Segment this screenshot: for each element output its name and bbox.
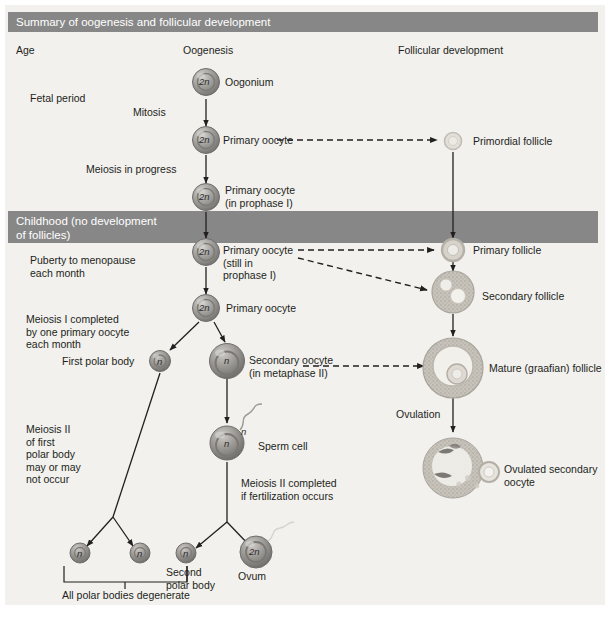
follicle-primary bbox=[442, 239, 464, 261]
follicle-ovulated bbox=[423, 438, 483, 498]
follicle-label-mature: Mature (graafian) follicle bbox=[489, 362, 602, 375]
arrow-to-polar-body-b bbox=[113, 517, 133, 546]
cell-label-primary-oocyte-prophase: Primary oocyte (in prophase I) bbox=[225, 184, 295, 209]
figure-canvas bbox=[0, 0, 610, 617]
process-label-meiosis-in-progress: Meiosis in progress bbox=[86, 163, 176, 176]
ploidy-polar-body-b: n bbox=[137, 548, 142, 561]
figure-title: Summary of oogenesis and follicular deve… bbox=[16, 15, 270, 29]
ploidy-primary-oocyte-4: 2n bbox=[199, 302, 210, 315]
age-label-fetal: Fetal period bbox=[30, 92, 85, 105]
cell-label-primary-oocyte-still: Primary oocyte (still in prophase I) bbox=[223, 244, 293, 282]
line-polar-body-meiosis-ii bbox=[113, 373, 160, 517]
ploidy-sperm: n bbox=[241, 426, 246, 439]
follicle-label-primary: Primary follicle bbox=[473, 244, 541, 257]
ploidy-primary-oocyte-prophase: 2n bbox=[199, 191, 210, 204]
cell-label-ovum: Ovum bbox=[238, 570, 266, 583]
column-header-oogenesis: Oogenesis bbox=[183, 44, 233, 57]
cell-label-first-polar-body: First polar body bbox=[62, 355, 134, 368]
follicle-secondary bbox=[432, 271, 474, 313]
cell-ovulated-secondary-oocyte bbox=[479, 462, 499, 482]
age-label-childhood: Childhood (no development of follicles) bbox=[16, 214, 157, 242]
follicle-label-secondary: Secondary follicle bbox=[482, 290, 564, 303]
process-label-degenerate: All polar bodies degenerate bbox=[62, 589, 190, 602]
follicle-label-primordial: Primordial follicle bbox=[473, 135, 552, 148]
process-label-meiosis-ii-completed: Meiosis II completed if fertilization oc… bbox=[241, 477, 337, 502]
cell-label-primary-oocyte-1: Primary oocyte bbox=[223, 134, 293, 147]
process-label-sperm-cell: Sperm cell bbox=[258, 440, 308, 453]
arrow-to-polar-body-a bbox=[87, 517, 113, 546]
process-label-ovulation: Ovulation bbox=[396, 408, 440, 421]
follicle-primordial bbox=[445, 133, 462, 150]
follicle-mature-graafian bbox=[423, 338, 483, 398]
ploidy-primary-oocyte-still: 2n bbox=[199, 246, 210, 259]
column-header-age: Age bbox=[16, 44, 35, 57]
ploidy-fertilized-oocyte: n bbox=[224, 438, 229, 451]
arrow-to-secondary-oocyte bbox=[214, 322, 225, 342]
cell-label-secondary-oocyte: Secondary oocyte (in metaphase II) bbox=[249, 354, 333, 379]
process-label-mitosis: Mitosis bbox=[133, 106, 166, 119]
dashed-link-secondary-follicle bbox=[298, 258, 427, 290]
ploidy-primary-oocyte-1: 2n bbox=[199, 134, 210, 147]
ovum-sperm-tail-icon bbox=[268, 522, 294, 541]
ploidy-polar-body-a: n bbox=[77, 548, 82, 561]
ploidy-second-polar-body: n bbox=[183, 548, 188, 561]
process-label-meiosis-ii-polar: Meiosis II of first polar body may or ma… bbox=[26, 423, 81, 486]
follicle-label-ovulated-oocyte: Ovulated secondary oocyte bbox=[504, 463, 597, 488]
figure-root: Summary of oogenesis and follicular deve… bbox=[0, 0, 610, 617]
ploidy-ovum: 2n bbox=[249, 546, 260, 559]
arrow-to-first-polar-body bbox=[170, 322, 199, 350]
cell-label-oogonium: Oogonium bbox=[225, 76, 273, 89]
cell-label-primary-oocyte-4: Primary oocyte bbox=[226, 302, 296, 315]
arrow-to-second-polar-body bbox=[196, 522, 227, 548]
cell-label-second-polar-body: Second polar body bbox=[166, 566, 215, 591]
process-label-meiosis-i-completed: Meiosis I completed by one primary oocyt… bbox=[26, 313, 129, 351]
ploidy-first-polar-body: n bbox=[157, 356, 162, 369]
ploidy-secondary-oocyte: n bbox=[224, 355, 229, 368]
age-label-puberty: Puberty to menopause each month bbox=[30, 254, 136, 279]
ploidy-oogonium: 2n bbox=[199, 76, 210, 89]
column-header-follicular: Follicular development bbox=[398, 44, 503, 57]
